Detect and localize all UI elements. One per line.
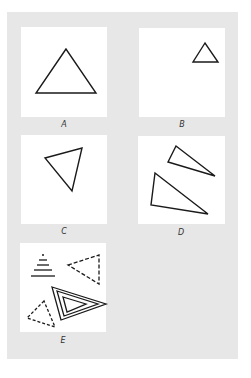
label-d: D [138,228,224,237]
panel-d [138,136,225,224]
panel-c [21,135,107,224]
panel-a [21,27,107,117]
panel-e [20,243,106,332]
label-e: E [20,336,106,345]
label-a: A [21,120,107,129]
label-b: B [139,120,225,129]
label-c: C [21,227,107,236]
panel-b [139,28,225,117]
